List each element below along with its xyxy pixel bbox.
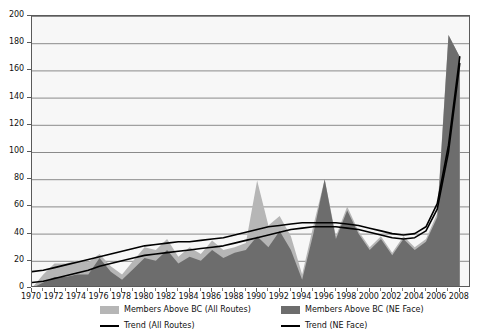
x-tick-label: 1970	[21, 292, 41, 301]
chart-container: 020406080100120140160180200 197019721974…	[0, 0, 482, 334]
x-tick-mark	[459, 288, 460, 292]
x-tick-label: 1992	[269, 292, 289, 301]
x-tick-label: 2000	[359, 292, 379, 301]
x-tick-label: 1978	[111, 292, 131, 301]
legend-item-members-all-routes: Members Above BC (All Routes)	[100, 303, 251, 316]
y-tick-label: 60	[14, 201, 24, 209]
x-tick-label: 1994	[291, 292, 311, 301]
x-tick-label: 2006	[426, 292, 446, 301]
x-tick-mark	[54, 288, 55, 292]
chart-legend: Members Above BC (All Routes) Trend (All…	[0, 303, 482, 334]
x-tick-label: 1972	[44, 292, 64, 301]
x-tick-mark	[121, 288, 122, 292]
x-tick-label: 1998	[336, 292, 356, 301]
series-layer	[32, 16, 469, 286]
legend-line-icon-ne-face	[281, 322, 300, 330]
y-tick-label: 80	[14, 174, 24, 182]
x-tick-mark	[99, 288, 100, 292]
x-tick-mark-minor	[335, 288, 336, 291]
legend-label: Trend (All Routes)	[124, 321, 195, 330]
x-tick-mark-minor	[447, 288, 448, 291]
y-tick-label: 140	[9, 93, 24, 101]
legend-label: Trend (NE Face)	[305, 321, 367, 330]
x-tick-label: 1996	[314, 292, 334, 301]
y-tick-label: 20	[14, 256, 24, 264]
x-tick-label: 1990	[246, 292, 266, 301]
x-tick-mark-minor	[65, 288, 66, 291]
legend-item-trend-ne-face: Trend (NE Face)	[281, 319, 424, 332]
area-series	[32, 35, 460, 287]
x-tick-mark-minor	[222, 288, 223, 291]
x-tick-mark-minor	[312, 288, 313, 291]
y-tick-label: 100	[9, 147, 24, 155]
x-tick-mark-minor	[357, 288, 358, 291]
x-tick-mark	[346, 288, 347, 292]
x-tick-mark-minor	[132, 288, 133, 291]
y-tick-label: 160	[9, 65, 24, 73]
x-tick-label: 2004	[404, 292, 424, 301]
legend-line-icon-all-routes	[100, 322, 119, 330]
x-tick-mark-minor	[245, 288, 246, 291]
x-tick-mark-minor	[42, 288, 43, 291]
x-tick-mark-minor	[290, 288, 291, 291]
y-tick-label: 120	[9, 120, 24, 128]
legend-column-right: Members Above BC (NE Face) Trend (NE Fac…	[281, 303, 424, 334]
x-axis: 1970197219741976197819801982198419861988…	[0, 288, 482, 304]
x-tick-mark	[144, 288, 145, 292]
legend-item-trend-all-routes: Trend (All Routes)	[100, 319, 251, 332]
x-tick-label: 1982	[156, 292, 176, 301]
x-tick-mark	[436, 288, 437, 292]
x-tick-mark-minor	[380, 288, 381, 291]
y-tick-label: 180	[9, 38, 24, 46]
y-tick-label: 200	[9, 11, 24, 19]
x-tick-mark	[234, 288, 235, 292]
x-tick-mark	[256, 288, 257, 292]
y-tick-label: 40	[14, 229, 24, 237]
legend-label: Members Above BC (NE Face)	[305, 305, 424, 314]
x-tick-mark-minor	[402, 288, 403, 291]
y-axis: 020406080100120140160180200	[0, 0, 31, 302]
legend-swatch-icon-all-routes	[100, 306, 119, 314]
x-tick-mark-minor	[425, 288, 426, 291]
x-tick-label: 1988	[224, 292, 244, 301]
x-tick-label: 1980	[134, 292, 154, 301]
x-tick-label: 1986	[201, 292, 221, 301]
x-tick-mark	[301, 288, 302, 292]
x-tick-label: 1984	[179, 292, 199, 301]
x-tick-mark-minor	[155, 288, 156, 291]
x-tick-mark-minor	[87, 288, 88, 291]
x-tick-mark	[76, 288, 77, 292]
plot-area	[31, 15, 470, 287]
x-tick-label: 1976	[89, 292, 109, 301]
legend-column-left: Members Above BC (All Routes) Trend (All…	[100, 303, 251, 334]
x-tick-mark-minor	[267, 288, 268, 291]
x-tick-label: 1974	[66, 292, 86, 301]
x-tick-mark	[414, 288, 415, 292]
x-tick-label: 2002	[381, 292, 401, 301]
x-tick-mark	[31, 288, 32, 292]
trend-line	[32, 57, 460, 272]
x-tick-mark-minor	[177, 288, 178, 291]
x-tick-mark-minor	[110, 288, 111, 291]
legend-swatch-icon-ne-face	[281, 306, 300, 314]
x-tick-mark	[369, 288, 370, 292]
x-tick-mark	[324, 288, 325, 292]
legend-item-members-ne-face: Members Above BC (NE Face)	[281, 303, 424, 316]
legend-label: Members Above BC (All Routes)	[124, 305, 251, 314]
x-tick-label: 2008	[449, 292, 469, 301]
x-tick-mark	[211, 288, 212, 292]
x-tick-mark	[166, 288, 167, 292]
x-tick-mark	[189, 288, 190, 292]
x-tick-mark	[279, 288, 280, 292]
x-tick-mark-minor	[200, 288, 201, 291]
x-tick-mark	[391, 288, 392, 292]
